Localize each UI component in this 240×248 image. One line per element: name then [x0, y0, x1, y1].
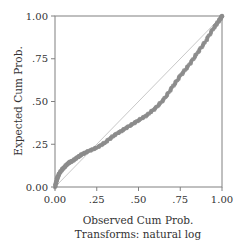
x-tick-label: 0.00 [44, 194, 66, 205]
x-axis-ticks: 0.00.25.50.751.00 [44, 187, 233, 205]
pp-plot: 0.00.25.50.751.00 0.00.25.50.751.00 Obse… [0, 0, 240, 248]
y-tick-label: .25 [32, 139, 48, 150]
data-point [220, 14, 224, 18]
x-tick-label: .50 [131, 194, 147, 205]
y-axis-title: Expected Cum Prob. [12, 46, 24, 155]
y-tick-label: 0.00 [26, 182, 48, 193]
y-tick-label: .75 [32, 53, 48, 64]
x-tick-label: .25 [89, 194, 105, 205]
y-axis-ticks: 0.00.25.50.751.00 [26, 11, 55, 193]
y-tick-label: 1.00 [26, 11, 48, 22]
x-axis-title: Observed Cum Prob. [83, 214, 194, 226]
reference-diagonal-line [55, 16, 222, 187]
x-axis-subtitle: Transforms: natural log [75, 228, 202, 240]
y-tick-label: .50 [32, 96, 48, 107]
x-tick-label: .75 [172, 194, 188, 205]
x-tick-label: 1.00 [211, 194, 233, 205]
diagonal-line [55, 16, 222, 187]
